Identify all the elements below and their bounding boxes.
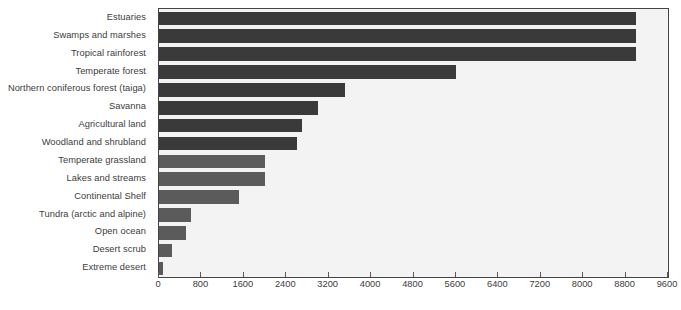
category-label: Lakes and streams bbox=[67, 169, 146, 188]
bar-row bbox=[159, 223, 668, 242]
category-label: Savanna bbox=[109, 97, 146, 116]
axis-tick bbox=[243, 272, 244, 277]
axis-tick bbox=[667, 272, 668, 277]
category-label: Extreme desert bbox=[82, 258, 146, 277]
bar bbox=[159, 29, 636, 43]
bar-chart: EstuariesSwamps and marshesTropical rain… bbox=[0, 0, 681, 310]
bar-row bbox=[159, 259, 668, 278]
bar bbox=[159, 190, 239, 204]
bar-row bbox=[159, 116, 668, 135]
axis-tick-label: 8800 bbox=[614, 279, 635, 289]
bar-row bbox=[159, 63, 668, 82]
axis-tick bbox=[370, 272, 371, 277]
category-axis-labels: EstuariesSwamps and marshesTropical rain… bbox=[0, 8, 152, 276]
axis-tick-label: 7200 bbox=[529, 279, 550, 289]
category-label: Estuaries bbox=[107, 8, 146, 27]
bar bbox=[159, 137, 297, 151]
axis-tick-label: 6400 bbox=[487, 279, 508, 289]
bar-row bbox=[159, 9, 668, 28]
bar bbox=[159, 226, 186, 240]
bars-layer bbox=[159, 9, 668, 277]
category-label: Northern coniferous forest (taiga) bbox=[8, 79, 146, 98]
bar-row bbox=[159, 98, 668, 117]
category-label: Temperate grassland bbox=[58, 151, 146, 170]
bar-row bbox=[159, 152, 668, 171]
bar bbox=[159, 155, 265, 169]
axis-tick bbox=[200, 272, 201, 277]
bar-row bbox=[159, 206, 668, 225]
axis-tick bbox=[497, 272, 498, 277]
axis-tick bbox=[540, 272, 541, 277]
category-label: Tropical rainforest bbox=[71, 44, 146, 63]
category-label: Agricultural land bbox=[78, 115, 146, 134]
bar-row bbox=[159, 170, 668, 189]
axis-tick-label: 9600 bbox=[657, 279, 678, 289]
axis-tick bbox=[158, 272, 159, 277]
axis-tick-label: 3200 bbox=[317, 279, 338, 289]
axis-tick bbox=[625, 272, 626, 277]
axis-tick-label: 4000 bbox=[360, 279, 381, 289]
category-label: Woodland and shrubland bbox=[42, 133, 146, 152]
bar bbox=[159, 208, 191, 222]
axis-tick-label: 800 bbox=[193, 279, 209, 289]
axis-tick-label: 4800 bbox=[402, 279, 423, 289]
bar-row bbox=[159, 80, 668, 99]
category-label: Swamps and marshes bbox=[53, 26, 146, 45]
category-label: Continental Shelf bbox=[74, 187, 146, 206]
category-label: Temperate forest bbox=[75, 62, 146, 81]
bar-row bbox=[159, 188, 668, 207]
value-axis: 0800160024003200400048005600640072008000… bbox=[158, 277, 669, 307]
bar bbox=[159, 65, 456, 79]
bar bbox=[159, 12, 636, 26]
bar-row bbox=[159, 27, 668, 46]
bar bbox=[159, 47, 636, 61]
axis-tick bbox=[455, 272, 456, 277]
bar bbox=[159, 119, 302, 133]
axis-tick bbox=[582, 272, 583, 277]
axis-tick bbox=[413, 272, 414, 277]
axis-tick bbox=[328, 272, 329, 277]
category-label: Desert scrub bbox=[93, 240, 146, 259]
category-label: Tundra (arctic and alpine) bbox=[39, 205, 146, 224]
axis-tick-label: 2400 bbox=[275, 279, 296, 289]
bar bbox=[159, 244, 172, 258]
axis-tick-label: 8000 bbox=[572, 279, 593, 289]
bar bbox=[159, 101, 318, 115]
bar-row bbox=[159, 134, 668, 153]
bar-row bbox=[159, 45, 668, 64]
axis-tick bbox=[285, 272, 286, 277]
bar bbox=[159, 172, 265, 186]
bar-row bbox=[159, 241, 668, 260]
category-label: Open ocean bbox=[95, 222, 146, 241]
bar bbox=[159, 83, 345, 97]
axis-tick-label: 0 bbox=[155, 279, 160, 289]
plot-area bbox=[158, 8, 669, 278]
axis-tick-label: 1600 bbox=[232, 279, 253, 289]
axis-tick-label: 5600 bbox=[445, 279, 466, 289]
bar bbox=[159, 262, 163, 276]
